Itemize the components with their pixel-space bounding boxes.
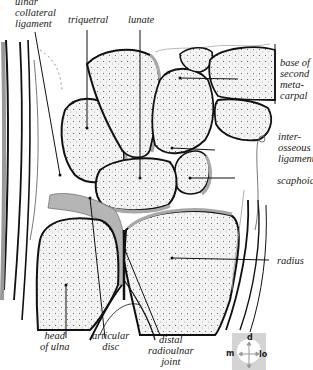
label-interosseous-ligament: inter- osseous ligament [278,131,313,164]
capitate-bone [152,69,213,153]
orientation-lateral: lo [259,351,267,359]
wrist-section-illustration [0,0,313,370]
radius-bone [124,211,239,335]
orientation-key: d m lo [232,333,266,370]
label-base-of-second-metacarpal: base of second meta- carpal [280,57,310,101]
trapezium-bone [215,99,272,140]
wrist-diagram: ulnar collateral ligament triquetral lun… [0,0,313,370]
label-triquetral: triquetral [68,14,108,25]
lunate-lower-bone [96,158,177,210]
label-lunate: lunate [128,14,154,25]
soft-tissue-lines [2,40,38,320]
second-metacarpal-base [209,47,275,100]
ulna-head [37,218,119,330]
label-radius: radius [277,255,304,266]
scaphoid-bone [175,151,210,194]
orientation-medial: m [226,350,234,358]
label-ulnar-collateral-ligament: ulnar collateral ligament [15,0,56,29]
label-head-of-ulna: head of ulna [40,330,69,352]
label-scaphoid: scaphoid [277,175,313,186]
orientation-distal: d [247,334,253,342]
label-distal-radioulnar-joint: distal radioulnar joint [148,334,194,367]
label-articular-disc: articular disc [92,330,129,352]
